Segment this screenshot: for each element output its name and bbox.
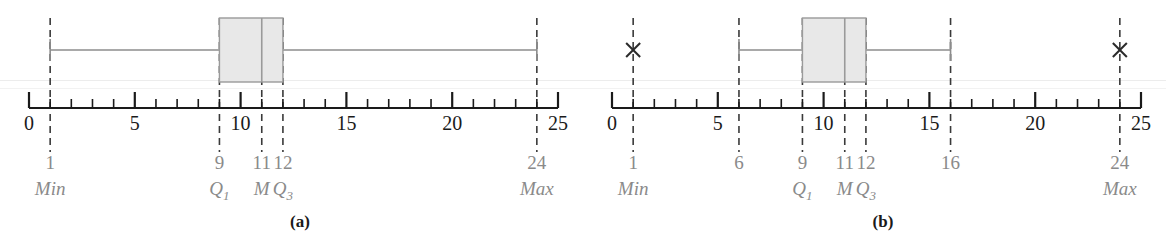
axis-tick-label: 15 <box>919 112 939 134</box>
marker-name-label: M <box>253 178 271 199</box>
axis-tick-label: 20 <box>442 112 462 134</box>
marker-name-label: Min <box>617 178 649 199</box>
marker-value-label: 11 <box>253 152 271 173</box>
marker-value-label: 1 <box>628 152 638 173</box>
box <box>219 18 282 82</box>
marker-value-label: 11 <box>836 152 854 173</box>
axis-tick-label: 10 <box>231 112 251 134</box>
axis-tick-label: 15 <box>336 112 356 134</box>
axis-tick-label: 25 <box>548 112 568 134</box>
marker-name-label: Q1 <box>792 178 812 203</box>
marker-name-label: Q3 <box>856 178 877 203</box>
axis-tick-label: 5 <box>713 112 723 134</box>
marker-value-label: 24 <box>1110 152 1130 173</box>
axis-tick-label: 10 <box>814 112 834 134</box>
marker-name-label: Q3 <box>273 178 294 203</box>
number-line-axis <box>29 92 558 108</box>
whiskers <box>50 39 537 61</box>
marker-value-label: 16 <box>941 152 960 173</box>
axis-tick-label: 5 <box>130 112 140 134</box>
marker-name-label: Max <box>1102 178 1137 199</box>
axis-tick-label: 0 <box>24 112 34 134</box>
marker-name-label: M <box>836 178 854 199</box>
marker-name-label: Min <box>34 178 66 199</box>
axis-tick-label: 20 <box>1025 112 1045 134</box>
panel-caption-a: (a) <box>245 212 355 232</box>
box <box>802 18 865 82</box>
marker-value-label: 12 <box>273 152 292 173</box>
marker-value-label: 1 <box>45 152 55 173</box>
panel-caption-b: (b) <box>828 212 938 232</box>
axis-tick-label: 0 <box>607 112 617 134</box>
marker-name-label: Q1 <box>209 178 229 203</box>
marker-name-label: Max <box>519 178 554 199</box>
marker-value-label: 24 <box>527 152 547 173</box>
marker-value-label: 9 <box>215 152 225 173</box>
marker-value-label: 9 <box>798 152 808 173</box>
number-line-axis <box>612 92 1141 108</box>
axis-tick-label: 25 <box>1131 112 1151 134</box>
marker-value-label: 12 <box>856 152 875 173</box>
boxplot-figure: 051015202519111224MinQ1MQ3Max 0510152025… <box>0 0 1166 250</box>
marker-value-label: 6 <box>734 152 744 173</box>
